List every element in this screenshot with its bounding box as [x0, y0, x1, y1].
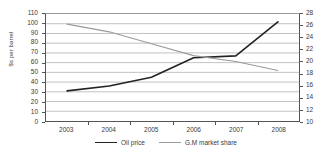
y-axis-left-tick-label: 0 — [18, 119, 38, 126]
legend-item-gm-market-share: G.M market share — [159, 139, 237, 146]
y-axis-left-tick-label: 90 — [18, 30, 38, 37]
x-axis-tick-label: 2006 — [177, 127, 211, 134]
y-axis-right-tick-label: 20 — [306, 58, 326, 65]
y-axis-right-tick-label: 22 — [306, 46, 326, 53]
x-axis-tick-label: 2007 — [219, 127, 253, 134]
x-axis-tick-mark — [173, 122, 174, 125]
y-axis-left-tick-label: 50 — [18, 69, 38, 76]
x-axis-tick-mark — [215, 122, 216, 125]
x-axis-tick-label: 2003 — [49, 127, 83, 134]
plot-area — [45, 13, 300, 122]
y-axis-left-tick-label: 10 — [18, 109, 38, 116]
y-axis-right-tick-label: 28 — [306, 10, 326, 17]
series-lines — [67, 22, 278, 91]
y-axis-right-tick-label: 24 — [306, 34, 326, 41]
legend-label-gm-market-share: G.M market share — [185, 139, 237, 146]
y-axis-right-tick-label: 26 — [306, 22, 326, 29]
x-axis-tick-mark — [88, 122, 89, 125]
x-axis-tick-label: 2005 — [134, 127, 168, 134]
y-axis-right-tick-label: 14 — [306, 94, 326, 101]
y-axis-left-tick-label: 100 — [18, 20, 38, 27]
y-axis-left-tick-mark — [42, 122, 45, 123]
y-axis-left-tick-label: 80 — [18, 39, 38, 46]
x-axis-tick-label: 2004 — [92, 127, 126, 134]
y-axis-right-tick-mark — [300, 110, 303, 111]
plot-svg — [46, 14, 299, 121]
chart-legend: Oil price G.M market share — [0, 139, 332, 146]
y-axis-right-tick-mark — [300, 86, 303, 87]
y-axis-left-tick-label: 20 — [18, 99, 38, 106]
y-axis-right-tick-label: 12 — [306, 107, 326, 114]
y-axis-right-tick-mark — [300, 122, 303, 123]
legend-item-oil-price: Oil price — [95, 139, 145, 146]
series-line-oil-price — [67, 22, 278, 91]
y-axis-label: $s per barrel — [8, 16, 14, 82]
legend-swatch-gm-market-share — [159, 142, 181, 143]
y-axis-right-tick-mark — [300, 98, 303, 99]
y-axis-right-tick-mark — [300, 13, 303, 14]
y-axis-right-tick-mark — [300, 61, 303, 62]
x-axis-tick-mark — [130, 122, 131, 125]
y-axis-left-tick-label: 70 — [18, 49, 38, 56]
y-axis-right-tick-label: 18 — [306, 70, 326, 77]
legend-label-oil-price: Oil price — [121, 139, 145, 146]
y-axis-right-tick-label: 10 — [306, 119, 326, 126]
x-axis-tick-mark — [258, 122, 259, 125]
y-axis-left-tick-label: 30 — [18, 89, 38, 96]
line-chart: $s per barrel 0102030405060708090100110 … — [0, 0, 332, 161]
legend-swatch-oil-price — [95, 142, 117, 143]
y-axis-left-tick-label: 110 — [18, 10, 38, 17]
y-axis-left-tick-label: 40 — [18, 79, 38, 86]
y-axis-left-tick-label: 60 — [18, 59, 38, 66]
x-axis-tick-label: 2008 — [262, 127, 296, 134]
y-axis-right-tick-mark — [300, 25, 303, 26]
y-axis-right-tick-mark — [300, 37, 303, 38]
y-axis-right-tick-mark — [300, 49, 303, 50]
y-axis-right-tick-label: 16 — [306, 82, 326, 89]
y-axis-right-tick-mark — [300, 74, 303, 75]
